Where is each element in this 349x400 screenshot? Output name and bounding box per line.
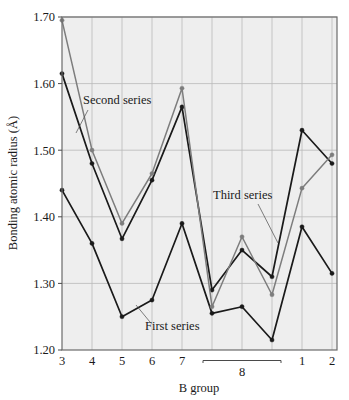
x-tick-label: 5 xyxy=(119,354,125,368)
data-point xyxy=(90,161,94,165)
data-point xyxy=(120,221,124,225)
y-axis-title: Bonding atomic radius (Å) xyxy=(6,116,20,250)
data-point xyxy=(300,128,304,132)
data-point xyxy=(150,298,154,302)
data-point xyxy=(150,178,154,182)
data-point xyxy=(330,161,334,165)
x-axis-title: B group xyxy=(179,381,220,395)
x-tick-label: 2 xyxy=(329,354,335,368)
data-point xyxy=(120,315,124,319)
data-point xyxy=(300,225,304,229)
data-point xyxy=(210,305,214,309)
y-tick-label: 1.50 xyxy=(33,144,55,158)
data-point xyxy=(330,271,334,275)
x-tick-label: 6 xyxy=(149,354,155,368)
y-tick-label: 1.30 xyxy=(33,277,55,291)
data-point xyxy=(270,338,274,342)
data-point xyxy=(270,275,274,279)
data-point xyxy=(90,148,94,152)
annotation-label: Third series xyxy=(213,188,272,202)
x-tick-label: 1 xyxy=(299,354,305,368)
data-point xyxy=(90,241,94,245)
y-tick-label: 1.60 xyxy=(33,77,55,91)
annotation-label: First series xyxy=(145,319,200,333)
data-point xyxy=(270,293,274,297)
data-point xyxy=(240,235,244,239)
data-point xyxy=(180,221,184,225)
y-tick-label: 1.70 xyxy=(33,10,55,24)
chart-container: 1.201.301.401.501.601.70 3456712 8 Secon… xyxy=(0,0,349,400)
bracket-label-8: 8 xyxy=(239,365,245,379)
data-point xyxy=(120,237,124,241)
x-tick-label: 4 xyxy=(89,354,96,368)
data-point xyxy=(210,311,214,315)
data-point xyxy=(240,305,244,309)
bonding-atomic-radius-line-chart: 1.201.301.401.501.601.70 3456712 8 Secon… xyxy=(0,0,349,400)
data-point xyxy=(330,153,334,157)
data-point xyxy=(240,248,244,252)
y-tick-label: 1.40 xyxy=(33,210,55,224)
data-point xyxy=(180,105,184,109)
data-point xyxy=(180,86,184,90)
y-tick-label: 1.20 xyxy=(33,343,55,357)
x-tick-label: 7 xyxy=(179,354,185,368)
annotation-label: Second series xyxy=(83,93,152,107)
plot-area-background xyxy=(62,17,337,350)
data-point xyxy=(300,186,304,190)
data-point xyxy=(150,171,154,175)
x-tick-label: 3 xyxy=(59,354,65,368)
